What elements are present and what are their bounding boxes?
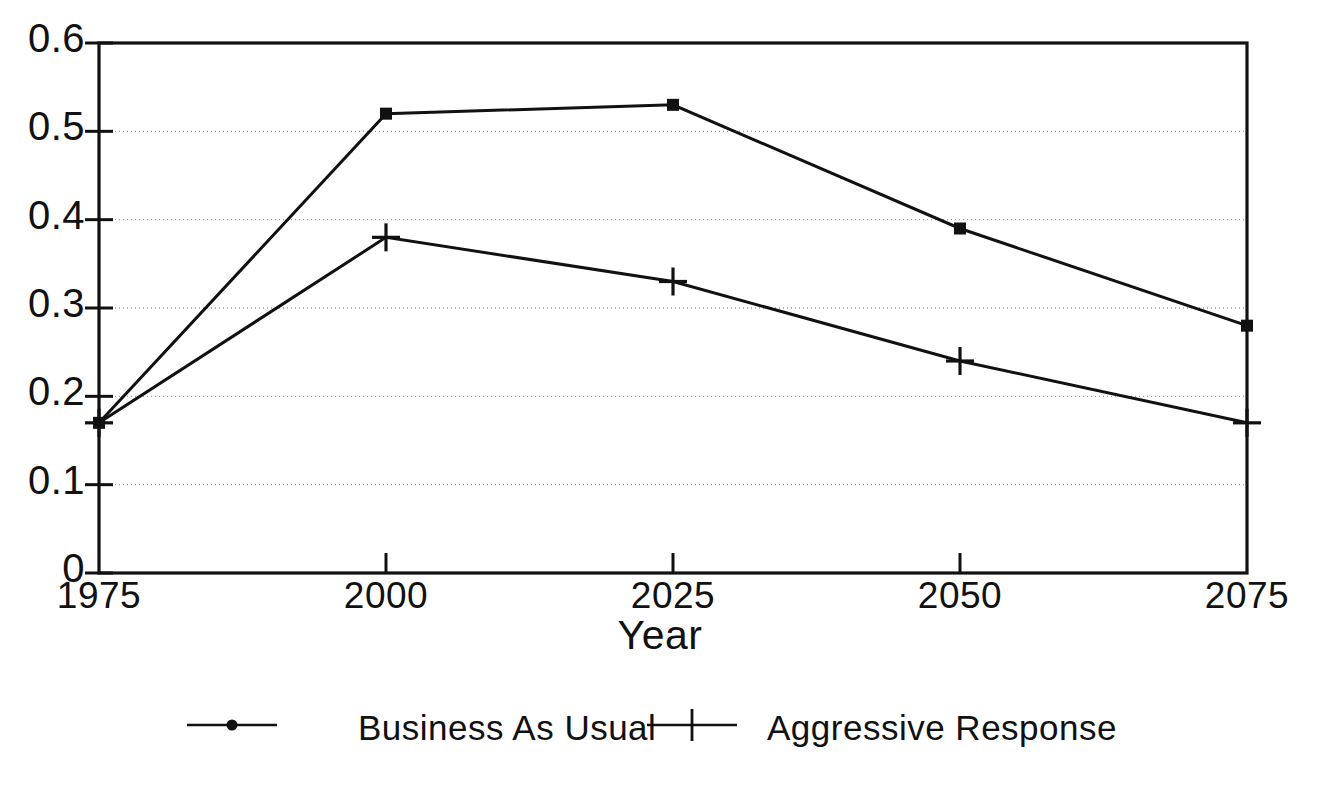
square-dot-marker (1241, 320, 1253, 332)
square-dot-marker (954, 223, 966, 235)
gridlines-group (99, 131, 1247, 484)
legend-label-business-as-usual[interactable]: Business As Usual (358, 708, 656, 748)
x-tick-label: 1975 (0, 575, 209, 617)
series-line-1 (99, 237, 1247, 423)
y-tick-label: 0.6 (0, 16, 85, 61)
chart-figure: 00.10.20.30.40.50.6 19752000202520502075… (0, 0, 1318, 786)
x-axis-title: Year (460, 612, 860, 659)
line-chart-canvas (0, 0, 1318, 786)
legend-label-aggressive-response[interactable]: Aggressive Response (767, 708, 1117, 748)
y-tick-label: 0.3 (0, 281, 85, 326)
x-axis-ticks (386, 553, 960, 573)
x-tick-label: 2075 (1137, 575, 1318, 617)
square-dot-marker (380, 108, 392, 120)
square-dot-marker (667, 99, 679, 111)
x-tick-label: 2025 (563, 575, 783, 617)
x-tick-label: 2050 (850, 575, 1070, 617)
y-tick-label: 0.2 (0, 369, 85, 414)
legend-marker-business-as-usual (227, 720, 238, 731)
y-tick-label: 0.1 (0, 458, 85, 503)
data-series-group (85, 99, 1261, 437)
series-line-0 (99, 105, 1247, 423)
y-tick-label: 0.4 (0, 193, 85, 238)
x-tick-label: 2000 (276, 575, 496, 617)
y-tick-label: 0.5 (0, 104, 85, 149)
